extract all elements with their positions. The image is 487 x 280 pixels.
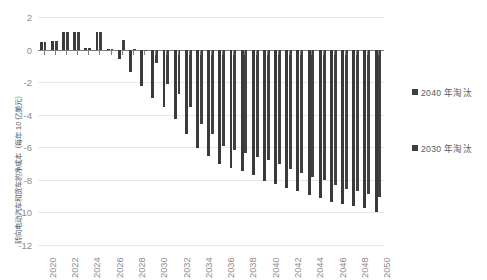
- bar: [96, 32, 99, 49]
- x-axis-tick: [345, 50, 346, 55]
- x-axis-tick-labels: 2020202220242026202820302032203420362038…: [38, 246, 384, 280]
- bar: [99, 32, 102, 49]
- x-axis-tick: [378, 50, 379, 55]
- bar: [178, 50, 181, 95]
- bar: [73, 32, 76, 49]
- x-axis-tick: [200, 50, 201, 55]
- x-axis-tick: [88, 50, 89, 55]
- bar: [352, 50, 355, 206]
- x-axis-tick-label: 2022: [70, 257, 80, 278]
- x-axis-tick-label: 2044: [315, 257, 325, 278]
- y-axis-tick-label: 0: [27, 44, 32, 55]
- bar: [278, 50, 281, 165]
- bar: [323, 50, 326, 180]
- bar: [263, 50, 266, 181]
- bar: [66, 32, 69, 49]
- bar: [163, 50, 166, 107]
- legend-swatch-icon-0: [412, 89, 418, 95]
- bar: [84, 48, 87, 50]
- x-axis-tick-label: 2026: [115, 257, 125, 278]
- bar: [230, 50, 233, 168]
- x-axis-tick: [155, 50, 156, 55]
- x-axis-tick: [334, 50, 335, 55]
- bar: [252, 50, 255, 175]
- x-axis-tick-label: 2038: [248, 257, 258, 278]
- x-axis-tick: [77, 50, 78, 55]
- bar: [285, 50, 288, 188]
- bar-chart: 转向电动汽车和货车的净成本（每年 10 亿美元） 20-2-4-6-8-10-1…: [0, 0, 487, 280]
- bar: [122, 40, 125, 50]
- bar: [274, 50, 277, 184]
- legend-label-1: 2030 年淘汰: [421, 142, 472, 154]
- y-axis-tick-label: -4: [24, 109, 32, 120]
- x-axis-tick-label: 2034: [204, 257, 214, 278]
- bar: [151, 50, 154, 99]
- x-axis-tick: [211, 50, 212, 55]
- bar: [166, 50, 169, 84]
- x-axis-tick-label: 2040: [271, 257, 281, 278]
- x-axis-tick: [178, 50, 179, 55]
- y-axis-tick-label: -6: [24, 142, 32, 153]
- x-axis-tick: [356, 50, 357, 55]
- x-axis-tick-label: 2024: [92, 257, 102, 278]
- chart-legend: 2040 年淘汰 2030 年淘汰: [412, 86, 487, 198]
- bar: [40, 42, 43, 49]
- x-axis-tick: [367, 50, 368, 55]
- y-axis-tick-labels: 20-2-4-6-8-10-12: [0, 17, 36, 245]
- bar: [375, 50, 378, 212]
- bar: [233, 50, 236, 150]
- x-axis-tick-label: 2042: [293, 257, 303, 278]
- legend-item-0[interactable]: 2040 年淘汰: [412, 86, 487, 98]
- y-axis-tick-label: -12: [18, 240, 32, 251]
- x-axis-tick: [278, 50, 279, 55]
- bar: [267, 50, 270, 161]
- x-axis-tick: [267, 50, 268, 55]
- x-axis-tick-label: 2030: [159, 257, 169, 278]
- legend-item-1[interactable]: 2030 年淘汰: [412, 142, 487, 154]
- x-axis-tick: [256, 50, 257, 55]
- bar: [334, 50, 337, 185]
- bar: [218, 50, 221, 164]
- bar: [345, 50, 348, 189]
- gridline: [38, 17, 384, 18]
- legend-swatch-icon-1: [412, 145, 418, 151]
- bar: [319, 50, 322, 198]
- x-axis-tick: [44, 50, 45, 55]
- legend-label-0: 2040 年淘汰: [421, 86, 472, 98]
- plot-area: [38, 17, 384, 245]
- x-axis-tick: [323, 50, 324, 55]
- x-axis-tick: [111, 50, 112, 55]
- bar: [378, 50, 381, 197]
- bar: [207, 50, 210, 157]
- x-axis-tick-label: 2032: [182, 257, 192, 278]
- y-axis-tick-label: 2: [27, 12, 32, 23]
- bar: [367, 50, 370, 194]
- x-axis-tick: [300, 50, 301, 55]
- bar: [44, 42, 47, 49]
- bar: [196, 50, 199, 149]
- x-axis-tick: [233, 50, 234, 55]
- x-axis-tick: [222, 50, 223, 55]
- bar: [185, 50, 188, 135]
- bar: [308, 50, 311, 196]
- x-axis-tick: [133, 50, 134, 55]
- bar: [174, 50, 177, 119]
- x-axis-tick-label: 2020: [48, 257, 58, 278]
- x-axis-tick-label: 2036: [226, 257, 236, 278]
- bar: [289, 50, 292, 170]
- bar: [51, 41, 54, 49]
- bar: [356, 50, 359, 192]
- bar: [244, 50, 247, 153]
- x-axis-tick: [144, 50, 145, 55]
- bar: [55, 41, 58, 49]
- y-axis-tick-label: -8: [24, 174, 32, 185]
- bar: [107, 49, 110, 50]
- x-axis-tick: [99, 50, 100, 55]
- x-axis-tick: [55, 50, 56, 55]
- bar: [341, 50, 344, 205]
- bar: [77, 32, 80, 49]
- y-axis-tick-label: -2: [24, 77, 32, 88]
- y-axis-tick-label: -10: [18, 207, 32, 218]
- bar: [300, 50, 303, 174]
- bar: [118, 50, 121, 59]
